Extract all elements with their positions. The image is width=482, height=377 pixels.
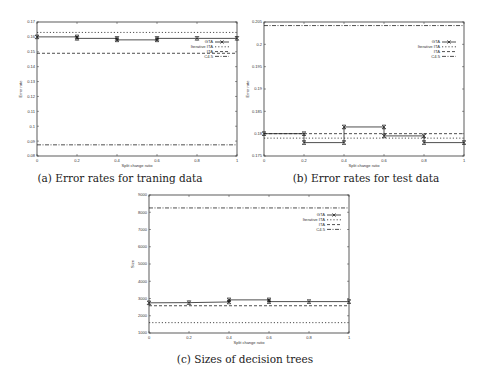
y-tick-label: 0.17: [27, 19, 36, 24]
caption-c: (c) Sizes of decision trees: [120, 353, 370, 365]
x-tick-label: 0.2: [74, 158, 80, 163]
y-tick-label: 3000: [138, 296, 148, 301]
y-tick-label: 9000: [138, 192, 148, 197]
y-tick-label: 0.185: [252, 109, 263, 114]
y-tick-label: 0.16: [27, 34, 36, 39]
legend-label: C4.5: [204, 54, 214, 59]
x-tick-label: 0.6: [154, 158, 160, 163]
y-tick-label: 7000: [138, 227, 148, 232]
x-axis-label: Split change ratio: [122, 163, 154, 168]
x-tick-label: 0.2: [301, 158, 307, 163]
y-tick-label: 0.11: [28, 109, 36, 114]
legend-label: C4.5: [431, 54, 441, 59]
chart-c-plot: 00.20.40.60.8110002000300040005000600070…: [120, 185, 362, 345]
x-tick-label: 0.6: [381, 158, 387, 163]
chart-a-plot: 00.20.40.60.810.080.090.10.110.120.130.1…: [0, 0, 240, 160]
chart-a: 00.20.40.60.810.080.090.10.110.120.130.1…: [0, 0, 240, 160]
chart-c: 00.20.40.60.8110002000300040005000600070…: [120, 185, 362, 345]
y-tick-label: 0.175: [252, 153, 263, 158]
x-axis-label: Split change ratio: [234, 340, 266, 345]
x-tick-label: 0.8: [421, 158, 427, 163]
y-tick-label: 0.08: [27, 153, 36, 158]
y-tick-label: 4000: [138, 279, 148, 284]
legend-label: C4.5: [316, 227, 326, 232]
x-axis-label: Split change ratio: [349, 163, 381, 168]
x-tick-label: 0.6: [266, 335, 272, 340]
x-tick-label: 0: [148, 335, 151, 340]
x-tick-label: 0.8: [194, 158, 200, 163]
y-tick-label: 2000: [138, 313, 148, 318]
x-tick-label: 0.4: [341, 158, 347, 163]
y-tick-label: 0.2: [256, 42, 262, 47]
y-axis-label: Size: [130, 259, 135, 268]
x-tick-label: 0.4: [226, 335, 232, 340]
y-tick-label: 0.19: [254, 86, 263, 91]
y-axis-label: Error rate: [245, 80, 250, 98]
y-axis-label: Error rate: [18, 80, 23, 98]
x-tick-label: 0.8: [306, 335, 312, 340]
y-tick-label: 1000: [138, 330, 148, 335]
series-gta: [264, 127, 464, 143]
x-tick-label: 0: [263, 158, 266, 163]
chart-b: 00.20.40.60.810.1750.180.1850.190.1950.2…: [240, 0, 482, 160]
y-tick-label: 0.18: [254, 131, 263, 136]
y-tick-label: 6000: [138, 244, 148, 249]
y-tick-label: 0.195: [252, 64, 263, 69]
y-tick-label: 0.14: [27, 64, 36, 69]
x-tick-label: 0.4: [114, 158, 120, 163]
x-tick-label: 1: [348, 335, 351, 340]
y-tick-label: 8000: [138, 210, 148, 215]
caption-b: (b) Error rates for test data: [250, 172, 482, 184]
x-tick-label: 1: [236, 158, 239, 163]
chart-b-plot: 00.20.40.60.810.1750.180.1850.190.1950.2…: [240, 0, 482, 160]
x-tick-label: 1: [463, 158, 466, 163]
y-tick-label: 0.13: [27, 79, 36, 84]
y-tick-label: 0.09: [27, 139, 36, 144]
y-tick-label: 0.205: [252, 19, 263, 24]
x-tick-label: 0: [36, 158, 39, 163]
series-gta: [149, 300, 349, 303]
y-tick-label: 5000: [138, 261, 148, 266]
caption-a: (a) Error rates for traning data: [0, 172, 240, 184]
x-tick-label: 0.2: [186, 335, 192, 340]
y-tick-label: 0.12: [27, 94, 36, 99]
y-tick-label: 0.15: [27, 49, 36, 54]
y-tick-label: 0.1: [29, 124, 35, 129]
